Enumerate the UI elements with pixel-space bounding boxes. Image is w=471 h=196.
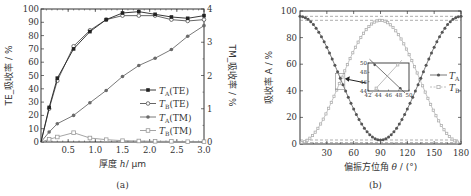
marker-icon <box>153 13 157 17</box>
y-right-tick-label: 2 <box>207 71 212 81</box>
x-tick-label: 120 <box>399 148 415 158</box>
y-tick-label: 0 <box>292 139 297 149</box>
marker-icon <box>389 24 391 26</box>
legend-entry: TA <box>449 71 460 82</box>
arrow-head-icon <box>345 76 350 82</box>
marker-icon <box>47 138 51 142</box>
marker-icon <box>301 15 304 18</box>
marker-icon <box>333 95 335 97</box>
marker-icon <box>104 18 108 22</box>
marker-icon <box>333 64 336 67</box>
marker-icon <box>137 10 141 14</box>
marker-icon <box>432 109 434 111</box>
y-tick-label: 20 <box>286 112 297 122</box>
marker-icon <box>384 137 387 140</box>
marker-icon <box>153 56 157 60</box>
marker-icon <box>419 77 422 80</box>
x-tick-label: 150 <box>426 148 442 158</box>
marker-icon <box>330 101 332 103</box>
marker-icon <box>382 138 385 141</box>
y-tick-label: 100 <box>281 6 297 16</box>
marker-icon <box>146 115 150 119</box>
marker-icon <box>336 70 339 73</box>
y-left-tick-label: 40 <box>28 84 39 94</box>
marker-icon <box>306 139 308 141</box>
x-tick-label: 180 <box>453 148 469 158</box>
marker-icon <box>446 23 449 26</box>
marker-icon <box>72 131 76 135</box>
marker-icon <box>47 106 51 110</box>
panel-b-chart: 3060901201501800204060801004244464850444… <box>263 6 469 190</box>
marker-icon <box>303 141 305 143</box>
marker-icon <box>137 14 141 18</box>
marker-icon <box>346 64 348 66</box>
series-line-2 <box>41 26 204 142</box>
inset-x-tick: 48 <box>395 92 402 98</box>
marker-icon <box>338 83 340 85</box>
marker-icon <box>352 52 354 54</box>
y-left-tick-label: 30 <box>28 97 39 107</box>
inset-y-tick: 48 <box>360 69 367 75</box>
marker-icon <box>56 122 60 126</box>
marker-icon <box>307 18 310 21</box>
inset-y-tick: 44 <box>360 88 367 94</box>
marker-icon <box>370 23 372 25</box>
marker-icon <box>400 38 402 40</box>
marker-icon <box>422 70 425 73</box>
marker-icon <box>121 139 125 143</box>
marker-icon <box>301 141 303 143</box>
marker-icon <box>395 127 398 130</box>
marker-icon <box>104 138 108 142</box>
marker-icon <box>170 140 174 144</box>
inset-x-tick: 44 <box>375 92 382 98</box>
marker-icon <box>438 35 441 38</box>
marker-icon <box>360 36 362 38</box>
marker-icon <box>376 138 379 141</box>
y-tick-label: 40 <box>286 86 297 96</box>
marker-icon <box>328 52 331 55</box>
marker-icon <box>347 96 350 99</box>
y-left-tick-label: 20 <box>28 110 39 120</box>
marker-icon <box>387 135 390 138</box>
marker-icon <box>400 118 403 121</box>
marker-icon <box>366 130 369 133</box>
y-right-tick-label: 1 <box>207 104 212 114</box>
marker-icon <box>153 140 157 144</box>
marker-icon <box>317 127 319 129</box>
marker-icon <box>406 108 409 111</box>
legend-entry: TA(TM) <box>159 113 192 124</box>
x-tick-label: 2.0 <box>143 145 157 155</box>
marker-icon <box>170 15 174 19</box>
marker-icon <box>202 14 206 18</box>
marker-icon <box>435 40 438 43</box>
marker-icon <box>440 124 442 126</box>
y-left-tick-label: 10 <box>28 124 39 134</box>
marker-icon <box>413 66 415 68</box>
legend-entry: TB(TE) <box>159 99 189 110</box>
marker-icon <box>354 46 356 48</box>
marker-icon <box>443 129 445 131</box>
marker-icon <box>121 75 125 79</box>
marker-icon <box>403 113 406 116</box>
marker-icon <box>362 32 364 34</box>
marker-icon <box>403 43 405 45</box>
marker-icon <box>304 16 307 19</box>
marker-icon <box>421 85 423 87</box>
marker-icon <box>311 134 313 136</box>
marker-icon <box>186 17 190 21</box>
marker-icon <box>349 57 351 59</box>
y-left-tick-label: 0 <box>34 137 39 147</box>
marker-icon <box>137 64 141 68</box>
caption-a: (a) <box>116 180 128 190</box>
y-left-tick-label: 90 <box>28 17 39 27</box>
marker-icon <box>435 115 437 117</box>
legend-entry: TB <box>449 83 460 94</box>
marker-icon <box>344 70 346 72</box>
marker-icon <box>368 25 370 27</box>
marker-icon <box>379 139 382 142</box>
marker-icon <box>430 52 433 55</box>
marker-icon <box>363 127 366 130</box>
marker-icon <box>438 120 440 122</box>
marker-icon <box>425 64 428 67</box>
marker-icon <box>454 16 457 19</box>
